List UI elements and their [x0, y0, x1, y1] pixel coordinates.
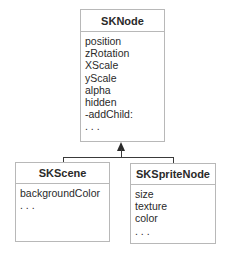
- member: . . .: [85, 120, 164, 132]
- member: position: [85, 35, 164, 47]
- class-box-skspritenode: SKSpriteNode size texture color . . .: [130, 163, 216, 244]
- class-title: SKSpriteNode: [131, 164, 215, 185]
- member: hidden: [85, 96, 164, 108]
- member: -addChild:: [85, 108, 164, 120]
- member: XScale: [85, 59, 164, 71]
- class-title: SKScene: [16, 163, 109, 184]
- member: zRotation: [85, 47, 164, 59]
- member: backgroundColor: [20, 187, 109, 199]
- member: . . .: [135, 225, 215, 237]
- class-members: size texture color . . .: [131, 185, 215, 237]
- class-members: backgroundColor . . .: [16, 184, 109, 211]
- connector-horizontal: [63, 157, 174, 158]
- member: size: [135, 188, 215, 200]
- class-box-skscene: SKScene backgroundColor . . .: [15, 162, 110, 242]
- class-title: SKNode: [81, 10, 164, 32]
- member: alpha: [85, 84, 164, 96]
- class-box-sknode: SKNode position zRotation XScale yScale …: [80, 9, 165, 142]
- member: color: [135, 212, 215, 224]
- member: yScale: [85, 72, 164, 84]
- member: texture: [135, 200, 215, 212]
- class-members: position zRotation XScale yScale alpha h…: [81, 32, 164, 133]
- member: . . .: [20, 199, 109, 211]
